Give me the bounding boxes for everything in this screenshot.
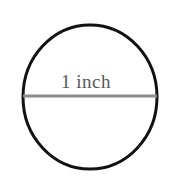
diameter-label: 1 inch — [0, 72, 172, 92]
